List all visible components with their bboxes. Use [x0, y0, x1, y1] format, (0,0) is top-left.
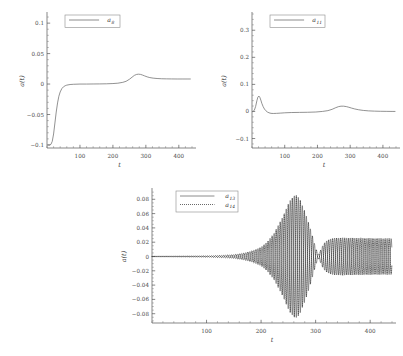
x-tick-label: 100 — [75, 153, 86, 159]
plot-panel-a8: 100200300400t0.10.050−0.05−0.1a(t)a8 — [0, 0, 200, 180]
x-axis-title: t — [323, 161, 326, 169]
y-tick-label: −0.1 — [235, 136, 249, 142]
x-tick-label: 400 — [173, 153, 184, 159]
y-tick-label: 0.08 — [137, 196, 150, 202]
y-tick-label: 0 — [145, 254, 149, 260]
y-tick-label: 0.3 — [240, 27, 249, 33]
x-tick-label: 200 — [312, 153, 323, 159]
plot-svg-a13-a14: 100200300400t0.080.060.040.020−0.02−0.04… — [100, 180, 403, 356]
y-tick-label: 0.04 — [137, 225, 150, 231]
y-tick-label: 0.1 — [240, 81, 249, 87]
y-axis-title: a(t) — [18, 75, 26, 87]
svg-text:8: 8 — [111, 20, 114, 25]
x-axis-title: t — [271, 336, 274, 344]
x-tick-label: 100 — [279, 153, 290, 159]
x-tick-label: 400 — [378, 153, 389, 159]
x-tick-label: 200 — [108, 153, 119, 159]
x-tick-label: 300 — [310, 328, 321, 334]
y-axis-title: a(t) — [120, 250, 128, 262]
y-tick-label: −0.1 — [30, 142, 44, 148]
y-tick-label: −0.02 — [132, 268, 150, 274]
plot-panel-a13-a14: 100200300400t0.080.060.040.020−0.02−0.04… — [100, 180, 403, 356]
y-tick-label: 0.06 — [137, 211, 150, 217]
x-tick-label: 400 — [365, 328, 376, 334]
y-tick-label: 0.02 — [137, 239, 150, 245]
x-tick-label: 200 — [256, 328, 267, 334]
x-tick-label: 300 — [345, 153, 356, 159]
y-tick-label: −0.06 — [132, 296, 150, 302]
y-tick-label: 0.1 — [35, 20, 44, 26]
x-axis-title: t — [118, 161, 121, 169]
figure-container: 100200300400t0.10.050−0.05−0.1a(t)a8 100… — [0, 0, 403, 356]
x-tick-label: 300 — [141, 153, 152, 159]
curve-a_11 — [253, 96, 395, 113]
y-tick-label: 0 — [245, 108, 249, 114]
svg-text:13: 13 — [229, 196, 235, 201]
plot-svg-a8: 100200300400t0.10.050−0.05−0.1a(t)a8 — [0, 0, 200, 180]
y-tick-label: 0 — [40, 81, 44, 87]
svg-text:11: 11 — [316, 20, 322, 25]
y-tick-label: −0.05 — [27, 112, 45, 118]
curve-a_8 — [48, 74, 190, 145]
plot-svg-a11: 100200300400t0.30.20.10−0.1a(t)a11 — [200, 0, 403, 180]
y-tick-label: −0.04 — [132, 282, 150, 288]
y-axis-title: a(t) — [220, 75, 228, 87]
curve-a_14 — [152, 196, 392, 318]
y-tick-label: 0.05 — [32, 51, 45, 57]
y-tick-label: −0.08 — [132, 311, 150, 317]
svg-text:14: 14 — [229, 204, 235, 209]
plot-panel-a11: 100200300400t0.30.20.10−0.1a(t)a11 — [200, 0, 403, 180]
y-tick-label: 0.2 — [240, 54, 249, 60]
x-tick-label: 100 — [201, 328, 212, 334]
